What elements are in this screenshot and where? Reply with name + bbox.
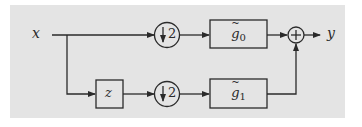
filter-g1-subscript: 1 (239, 91, 245, 102)
output-label: y (327, 26, 335, 40)
g1-to-sum-arrow (267, 44, 296, 94)
bottom-downsampler-factor: 2 (168, 86, 176, 100)
input-label: x (32, 26, 40, 40)
filter-g0-label: g0 (210, 26, 267, 41)
filter-g0-subscript: 0 (239, 32, 245, 43)
diagram-canvas (0, 0, 362, 127)
delay-label: z (105, 86, 112, 100)
filter-g1-label: g1 (210, 85, 267, 100)
top-downsampler-factor: 2 (168, 27, 176, 41)
branch-to-delay-arrow (67, 35, 95, 94)
